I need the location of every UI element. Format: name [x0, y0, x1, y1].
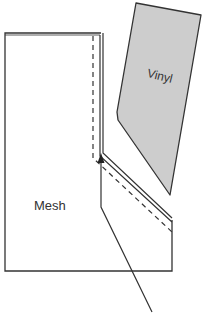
- vinyl-piece: [117, 3, 201, 195]
- mesh-label: Mesh: [34, 199, 66, 212]
- pointer-arrow-line: [101, 160, 152, 312]
- pattern-diagram: [0, 0, 205, 316]
- arrowhead-icon: [98, 153, 105, 163]
- diagram-canvas: Mesh Vinyl: [0, 0, 205, 316]
